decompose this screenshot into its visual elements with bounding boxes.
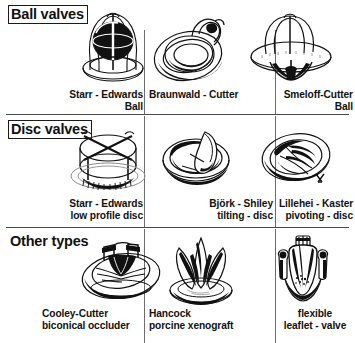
porcine-xenograft-valve-illustration xyxy=(165,232,237,306)
caption-cooley-cutter: Cooley-Cutter biconical occluder xyxy=(42,308,143,331)
caption-line-1: Björk - Shiley xyxy=(149,198,273,210)
caption-lillehei-kaster: Lillehei - Kaster pivoting - disc xyxy=(279,198,353,221)
caption-starr-edwards-disc: Starr - Edwards low profile disc xyxy=(48,198,143,221)
section-header-ball-valves: Ball valves xyxy=(8,5,88,24)
caption-line-2: tilting - disc xyxy=(149,210,273,222)
caption-braunwald-cutter: Braunwald - Cutter xyxy=(149,89,273,101)
caption-line-2: Ball xyxy=(279,101,353,113)
caption-bjork-shiley: Björk - Shiley tilting - disc xyxy=(149,198,273,221)
caption-line-1: Braunwald - Cutter xyxy=(149,89,273,101)
caption-starr-edwards-ball: Starr - Edwards Ball xyxy=(48,89,143,112)
caption-line-1: Hancock xyxy=(149,308,273,320)
low-profile-ball-valve-illustration xyxy=(152,12,228,86)
pivoting-disc-valve-illustration xyxy=(258,130,340,194)
caption-line-2: porcine xenograft xyxy=(149,320,273,332)
caption-line-1: Smeloff-Cutter xyxy=(279,89,353,101)
caption-line-2: Ball xyxy=(48,101,143,113)
caged-disc-valve-illustration xyxy=(68,126,148,192)
caption-line-2: low profile disc xyxy=(48,210,143,222)
caption-line-1: Lillehei - Kaster xyxy=(279,198,353,210)
caption-line-1: flexible xyxy=(277,308,353,320)
caption-line-1: Cooley-Cutter xyxy=(42,308,143,320)
open-cage-ball-valve-illustration xyxy=(248,10,334,86)
biconical-occluder-valve-illustration xyxy=(80,238,166,304)
tilting-disc-valve-illustration xyxy=(160,124,238,194)
caption-line-2: pivoting - disc xyxy=(279,210,353,222)
prosthetic-heart-valve-figure: Ball valves xyxy=(0,0,355,343)
caption-line-1: Starr - Edwards xyxy=(48,198,143,210)
caption-flexible-leaflet: flexible leaflet - valve xyxy=(277,308,353,331)
caption-smeloff-cutter-ball: Smeloff-Cutter Ball xyxy=(279,89,353,112)
section-header-other-types: Other types xyxy=(8,233,91,250)
caption-line-2: biconical occluder xyxy=(42,320,143,332)
flexible-leaflet-valve-illustration xyxy=(267,232,339,308)
caption-hancock: Hancock porcine xenograft xyxy=(149,308,273,331)
caption-line-1: Starr - Edwards xyxy=(48,89,143,101)
caged-ball-valve-illustration xyxy=(80,8,146,86)
caption-line-2: leaflet - valve xyxy=(277,320,353,332)
